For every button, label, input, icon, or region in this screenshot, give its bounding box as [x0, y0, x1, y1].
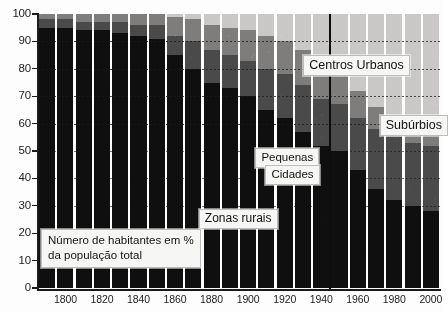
segment-pequenas-cidades	[130, 14, 146, 25]
segment-zonas-rurais	[240, 96, 256, 288]
segment-subúrbios	[204, 14, 220, 25]
segment-centros-urbanos	[222, 55, 238, 88]
x-axis-line	[37, 289, 441, 291]
segment-pequenas-cidades	[112, 14, 128, 22]
x-tick-label-1860: 1860	[164, 293, 187, 305]
segment-centros-urbanos	[331, 104, 347, 151]
segment-zonas-rurais	[423, 211, 439, 288]
segment-centros-urbanos	[258, 68, 274, 110]
segment-centros-urbanos	[204, 49, 220, 82]
segment-subúrbios	[240, 14, 256, 30]
segment-subúrbios	[185, 14, 201, 19]
segment-pequenas-cidades	[222, 27, 238, 55]
segment-centros-urbanos	[350, 118, 366, 171]
segment-pequenas-cidades	[204, 24, 220, 49]
segment-centros-urbanos	[368, 129, 384, 190]
segment-pequenas-cidades	[149, 14, 165, 25]
segment-zonas-rurais	[331, 150, 347, 288]
segment-centros-urbanos	[386, 137, 402, 201]
segment-subúrbios	[277, 14, 293, 41]
segment-zonas-rurais	[204, 82, 220, 288]
label-suburbios: Subúrbios	[380, 115, 448, 136]
caption-line-1: Número de habitantes em %	[48, 234, 194, 246]
segment-pequenas-cidades	[57, 14, 73, 19]
segment-centros-urbanos	[277, 74, 293, 118]
segment-pequenas-cidades	[94, 14, 110, 22]
chart-caption: Número de habitantes em % da população t…	[41, 229, 201, 267]
segment-centros-urbanos	[423, 145, 439, 211]
x-tick-label-1900: 1900	[237, 293, 260, 305]
segment-zonas-rurais	[368, 189, 384, 288]
segment-zonas-rurais	[277, 118, 293, 288]
segment-zonas-rurais	[405, 205, 421, 288]
caption-line-2: da população total	[48, 249, 142, 261]
x-tick-label-2000: 2000	[419, 293, 442, 305]
segment-subúrbios	[167, 14, 183, 17]
x-tick-label-1920: 1920	[273, 293, 296, 305]
segment-subúrbios	[350, 14, 366, 91]
segment-pequenas-cidades	[76, 14, 92, 22]
segment-centros-urbanos	[240, 60, 256, 96]
segment-zonas-rurais	[258, 109, 274, 288]
segment-centros-urbanos	[94, 22, 110, 31]
segment-pequenas-cidades	[39, 14, 55, 19]
x-tick-label-1840: 1840	[127, 293, 150, 305]
segment-zonas-rurais	[386, 200, 402, 288]
segment-centros-urbanos	[39, 19, 55, 28]
y-tick-label-50: 50	[0, 144, 31, 156]
segment-pequenas-cidades	[185, 19, 201, 42]
segment-zonas-rurais	[222, 87, 238, 288]
segment-subúrbios	[423, 14, 439, 126]
segment-centros-urbanos	[57, 19, 73, 28]
y-tick-label-0: 0	[0, 281, 31, 293]
y-tick-label-70: 70	[0, 89, 31, 101]
segment-centros-urbanos	[313, 98, 329, 145]
x-tick-label-1960: 1960	[346, 293, 369, 305]
x-tick-label-1820: 1820	[90, 293, 113, 305]
label-centros-urbanos: Centros Urbanos	[303, 55, 410, 76]
segment-subúrbios	[258, 14, 274, 36]
segment-zonas-rurais	[350, 170, 366, 288]
bar-1900	[240, 14, 256, 288]
y-tick-label-40: 40	[0, 171, 31, 183]
segment-subúrbios	[295, 14, 311, 50]
y-tick-label-60: 60	[0, 117, 31, 129]
bar-1890	[222, 14, 238, 288]
y-tick-label-10: 10	[0, 254, 31, 266]
x-tick-label-1880: 1880	[200, 293, 223, 305]
label-pequenas-cidades-line2: Cidades	[265, 165, 319, 185]
segment-pequenas-cidades	[240, 30, 256, 61]
y-tick-label-80: 80	[0, 62, 31, 74]
segment-pequenas-cidades	[277, 41, 293, 74]
segment-centros-urbanos	[167, 35, 183, 55]
segment-centros-urbanos	[149, 24, 165, 38]
x-tick-label-1980: 1980	[383, 293, 406, 305]
y-tick-label-20: 20	[0, 226, 31, 238]
segment-centros-urbanos	[130, 24, 146, 36]
y-tick-label-30: 30	[0, 199, 31, 211]
segment-centros-urbanos	[295, 85, 311, 132]
segment-pequenas-cidades	[167, 16, 183, 36]
x-tick-label-1800: 1800	[54, 293, 77, 305]
segment-pequenas-cidades	[350, 90, 366, 118]
segment-centros-urbanos	[112, 22, 128, 34]
x-tick-label-1940: 1940	[310, 293, 333, 305]
label-zonas-rurais: Zonas rurais	[199, 209, 278, 229]
segment-centros-urbanos	[76, 22, 92, 31]
bar-1880	[204, 14, 220, 288]
bar-2000	[423, 14, 439, 288]
segment-pequenas-cidades	[258, 35, 274, 68]
y-tick-label-100: 100	[0, 7, 31, 19]
segment-subúrbios	[222, 14, 238, 28]
segment-centros-urbanos	[405, 142, 421, 206]
y-tick-label-90: 90	[0, 34, 31, 46]
segment-centros-urbanos	[185, 41, 201, 69]
